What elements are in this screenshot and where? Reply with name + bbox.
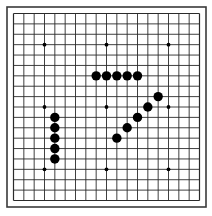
- black-stone: [91, 71, 100, 80]
- star-point: [167, 43, 171, 47]
- black-stone: [133, 71, 142, 80]
- black-stone: [50, 154, 59, 163]
- black-stone: [122, 71, 131, 80]
- black-stone: [50, 113, 59, 122]
- black-stone: [112, 71, 121, 80]
- black-stone: [50, 144, 59, 153]
- star-point: [167, 167, 171, 171]
- black-stone: [50, 123, 59, 132]
- black-stone: [102, 71, 111, 80]
- go-board[interactable]: [0, 0, 212, 216]
- black-stone: [122, 123, 131, 132]
- star-point: [105, 43, 109, 47]
- star-point: [105, 105, 109, 109]
- black-stone: [143, 102, 152, 111]
- black-stone: [50, 133, 59, 142]
- black-stone: [133, 113, 142, 122]
- star-point: [43, 167, 47, 171]
- star-point: [167, 105, 171, 109]
- board-grid[interactable]: [0, 0, 212, 216]
- star-point: [43, 105, 47, 109]
- star-point: [43, 43, 47, 47]
- black-stone: [112, 133, 121, 142]
- black-stone: [153, 92, 162, 101]
- star-point: [105, 167, 109, 171]
